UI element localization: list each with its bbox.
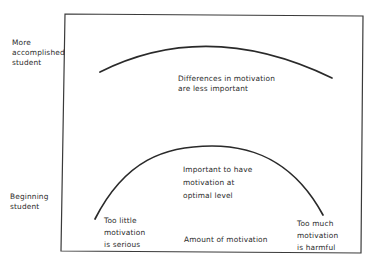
beginning-student-label: Beginning student — [10, 192, 49, 212]
label-line: motivation — [297, 230, 338, 242]
label-line: Differences in motivation — [178, 74, 275, 84]
upper-curve-annotation: Differences in motivation are less impor… — [178, 74, 275, 94]
label-line: student — [12, 58, 65, 68]
label-line: accomplished — [12, 48, 65, 58]
too-little-motivation-note: Too little motivation is serious — [104, 215, 145, 251]
label-line: optimal level — [183, 189, 252, 202]
label-line: Important to have — [183, 163, 252, 176]
label-line: is serious — [104, 239, 145, 251]
label-line: Too little — [104, 215, 145, 227]
label-line: motivation — [104, 227, 145, 239]
label-line: student — [10, 202, 49, 212]
more-accomplished-student-label: More accomplished student — [12, 38, 65, 68]
diagram-canvas: More accomplished student Beginning stud… — [0, 0, 374, 266]
label-line: Beginning — [10, 192, 49, 202]
x-axis-label: Amount of motivation — [184, 235, 268, 245]
label-line: More — [12, 38, 65, 48]
label-line: are less important — [178, 84, 275, 94]
label-line: Too much — [297, 218, 338, 230]
label-line: motivation at — [183, 176, 252, 189]
too-much-motivation-note: Too much motivation is harmful — [297, 218, 338, 254]
label-line: Amount of motivation — [184, 235, 268, 245]
lower-curve-annotation: Important to have motivation at optimal … — [183, 163, 252, 202]
label-line: is harmful — [297, 242, 338, 254]
